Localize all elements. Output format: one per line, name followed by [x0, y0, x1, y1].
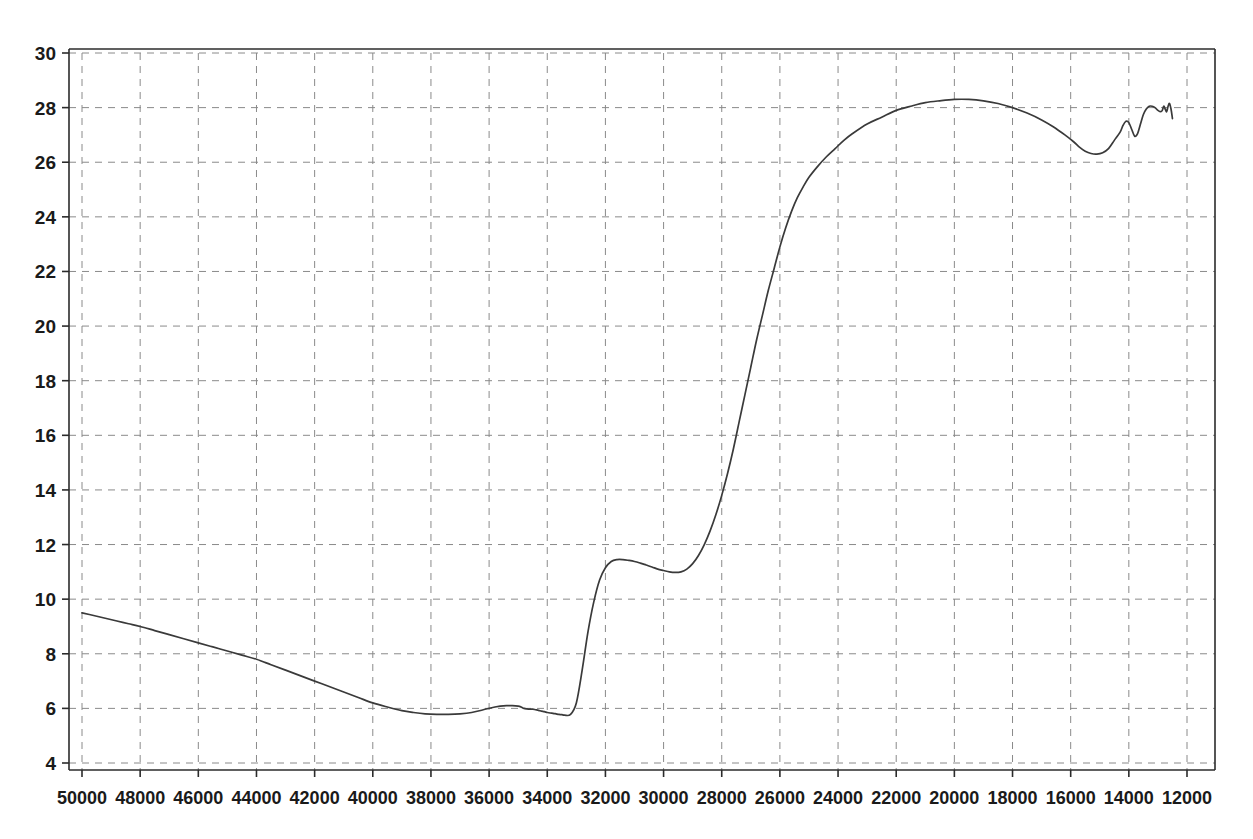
- x-tick-label: 20000: [929, 788, 979, 808]
- y-tick-label: 8: [45, 644, 56, 665]
- grid-layer: [69, 53, 1215, 770]
- chart-container: 4681012141618202224262830 50000480004600…: [0, 0, 1253, 839]
- y-tick-label: 12: [35, 535, 56, 556]
- y-tick-label: 26: [35, 152, 56, 173]
- y-tick-label: 30: [35, 43, 56, 64]
- x-tick-label: 22000: [871, 788, 921, 808]
- data-series-line: [82, 99, 1172, 715]
- x-tick-label: 42000: [290, 788, 340, 808]
- chart-plot: 4681012141618202224262830 50000480004600…: [0, 0, 1253, 839]
- y-tick-label: 10: [35, 589, 56, 610]
- x-tick-label: 32000: [580, 788, 630, 808]
- x-tick-label: 12000: [1162, 788, 1212, 808]
- y-tick-label: 6: [45, 698, 56, 719]
- x-tick-label: 50000: [57, 788, 107, 808]
- y-tick-label: 20: [35, 316, 56, 337]
- axis-layer: [69, 49, 1215, 770]
- x-tick-label: 24000: [813, 788, 863, 808]
- y-tick-label: 16: [35, 425, 56, 446]
- x-tick-label: 44000: [231, 788, 281, 808]
- x-tick-label: 30000: [639, 788, 689, 808]
- x-tick-label: 16000: [1046, 788, 1096, 808]
- x-tick-label: 14000: [1104, 788, 1154, 808]
- x-tick-label: 48000: [115, 788, 165, 808]
- x-tick-label: 28000: [697, 788, 747, 808]
- x-tick-label: 36000: [464, 788, 514, 808]
- x-tick-label: 38000: [406, 788, 456, 808]
- y-tick-label: 4: [45, 753, 56, 774]
- y-tick-label: 24: [35, 207, 57, 228]
- x-tick-label: 46000: [173, 788, 223, 808]
- x-axis-tick-labels: 5000048000460004400042000400003800036000…: [57, 788, 1212, 808]
- x-tick-label: 18000: [987, 788, 1037, 808]
- data-series-layer: [82, 99, 1172, 715]
- y-axis-tick-labels: 4681012141618202224262830: [35, 43, 57, 774]
- y-tick-label: 28: [35, 98, 56, 119]
- x-tick-label: 26000: [755, 788, 805, 808]
- y-tick-label: 22: [35, 261, 56, 282]
- y-tick-label: 14: [35, 480, 57, 501]
- x-tick-label: 34000: [522, 788, 572, 808]
- x-tick-label: 40000: [348, 788, 398, 808]
- y-tick-label: 18: [35, 371, 56, 392]
- tick-marks-layer: [62, 53, 1187, 777]
